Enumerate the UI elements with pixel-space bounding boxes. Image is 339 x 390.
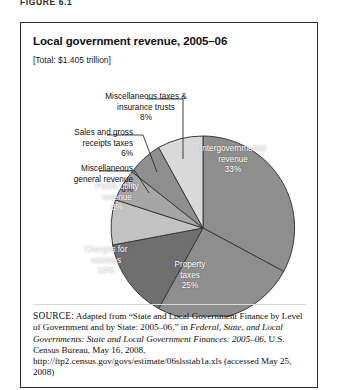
pie-label-intergovernmental-revenue: Intergovernmental revenue 33% — [171, 144, 295, 176]
source-note: SOURCE: Adapted from “State and Local Go… — [33, 311, 309, 379]
pie-label-sales-and-gross-receipts-taxes: Sales and gross receipts taxes 6% — [41, 128, 133, 160]
pie-label-charges-for-services: Charges for services 14% — [63, 245, 149, 277]
figure-box: Local government revenue, 2005–06 [Total… — [20, 22, 318, 388]
figure-number: FIGURE 6.1 — [20, 0, 72, 7]
source-label: SOURCE: — [33, 311, 74, 321]
pie-label-miscellaneous-taxes-insurance-trusts: Miscellaneous taxes & insurance trusts 8… — [91, 92, 201, 124]
pie-label-public-utility-revenue: Public utility revenue 8% — [77, 182, 157, 214]
source-divider — [33, 304, 306, 305]
pie-label-property-taxes: Property taxes 25% — [151, 260, 229, 292]
chart-subtitle: [Total: $1.405 trillion] — [33, 55, 111, 65]
pie-chart: Miscellaneous taxes & insurance trusts 8… — [21, 67, 317, 317]
chart-title: Local government revenue, 2005–06 — [33, 35, 227, 47]
